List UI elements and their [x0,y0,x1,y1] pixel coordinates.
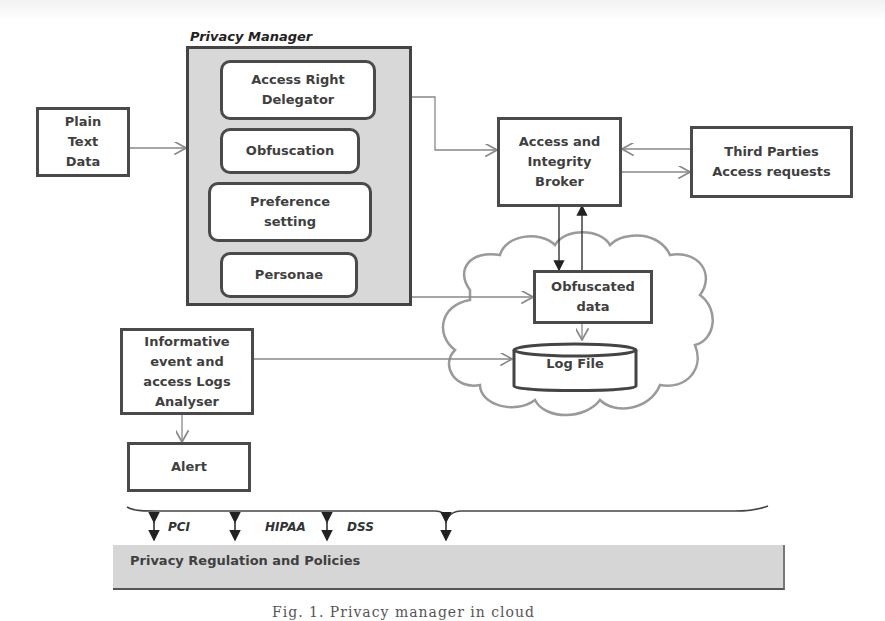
label-line: Alert [171,457,207,477]
logs-analyser-box[interactable]: Informative event and access Logs Analys… [120,328,254,415]
privacy-regulation-label: Privacy Regulation and Policies [130,553,360,568]
label-line: Access and [519,132,601,152]
label-line: Third Parties [712,142,831,162]
label-line: Data [65,152,101,172]
obfuscation-box[interactable]: Obfuscation [220,128,360,174]
label-line: Access Right [251,70,345,90]
diagram-canvas: Privacy Manager Access Right Delegator O… [0,0,885,621]
label-line: Delegator [251,90,345,110]
figure-caption: Fig. 1. Privacy manager in cloud [272,604,535,620]
label-line: Broker [519,172,601,192]
personae-box[interactable]: Personae [220,252,358,298]
label-line: Text [65,132,101,152]
plain-text-data-box[interactable]: Plain Text Data [36,107,130,177]
tag-pci: PCI [168,520,190,534]
alert-box[interactable]: Alert [127,442,251,492]
label-line: Plain [65,112,101,132]
label-line: setting [250,212,330,232]
privacy-manager-title: Privacy Manager [190,29,312,44]
preference-setting-box[interactable]: Preference setting [208,182,372,242]
tag-dss: DSS [347,520,374,534]
third-parties-box[interactable]: Third Parties Access requests [690,126,853,198]
log-file-label[interactable]: Log File [512,356,638,371]
label-line: Obfuscation [246,141,334,161]
label-line: Analyser [143,392,230,412]
obfuscated-data-box[interactable]: Obfuscated data [533,270,653,324]
label-line: event and [143,352,230,372]
label-line: Obfuscated [551,277,635,297]
label-line: Access requests [712,162,831,182]
label-line: data [551,297,635,317]
label-line: Integrity [519,152,601,172]
connector-layer [0,0,885,621]
access-right-delegator-box[interactable]: Access Right Delegator [220,60,376,120]
tag-hipaa: HIPAA [265,520,306,534]
label-line: access Logs [143,372,230,392]
regulation-brace [127,506,768,517]
label-line: Preference [250,192,330,212]
label-line: Informative [143,332,230,352]
label-line: Personae [255,265,323,285]
access-integrity-broker-box[interactable]: Access and Integrity Broker [497,117,622,207]
